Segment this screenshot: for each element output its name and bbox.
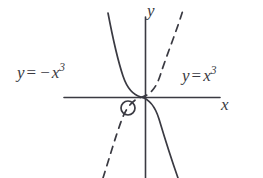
equation-label-positive-x-cubed: y=x3 bbox=[182, 65, 216, 84]
graph-canvas bbox=[0, 0, 263, 178]
x-axis-label: x bbox=[221, 96, 229, 113]
y-axis-label: y bbox=[147, 2, 155, 19]
right-label-lhs: y bbox=[182, 66, 190, 85]
left-label-equals: = bbox=[25, 63, 39, 82]
math-figure: y x y=−x3 y=x3 bbox=[0, 0, 263, 178]
open-point-marker bbox=[121, 101, 135, 115]
right-label-equals: = bbox=[190, 66, 204, 85]
left-label-lhs: y bbox=[17, 63, 25, 82]
equation-label-negative-x-cubed: y=−x3 bbox=[17, 62, 65, 81]
left-label-minus: − bbox=[38, 63, 52, 82]
curve-positive-x-cubed bbox=[103, 10, 183, 178]
curve-negative-x-cubed bbox=[108, 13, 178, 178]
right-label-base: x bbox=[203, 66, 211, 85]
right-label-exponent: 3 bbox=[211, 64, 217, 77]
left-label-exponent: 3 bbox=[59, 61, 65, 74]
